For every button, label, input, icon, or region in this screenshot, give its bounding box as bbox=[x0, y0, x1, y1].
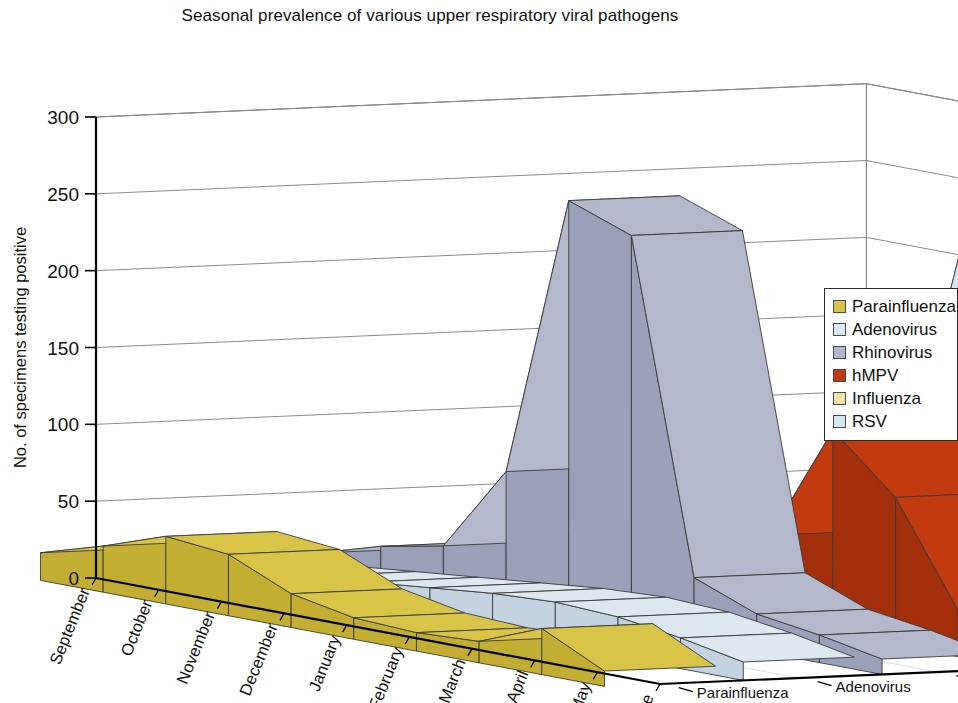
y-tick-label: 250 bbox=[47, 184, 79, 205]
surface-chart-3d: 050100150200250300No. of specimens testi… bbox=[0, 0, 958, 703]
x-tick-label: January bbox=[305, 632, 344, 694]
legend-item-adenovirus[interactable]: Adenovirus bbox=[833, 318, 949, 341]
ribbon-layer bbox=[40, 147, 958, 686]
legend-swatch-icon bbox=[833, 369, 846, 382]
legend-swatch-icon bbox=[833, 392, 846, 405]
y-tick-label: 50 bbox=[58, 491, 79, 512]
x-tick-label: December bbox=[236, 620, 281, 698]
y-axis-title: No. of specimens testing positive bbox=[11, 227, 29, 468]
legend-item-rhinovirus[interactable]: Rhinovirus bbox=[833, 341, 949, 364]
legend-swatch-icon bbox=[833, 346, 846, 359]
legend-item-parainfluenza[interactable]: Parainfluenza bbox=[833, 295, 949, 318]
y-tick-label: 150 bbox=[47, 338, 79, 359]
y-tick-label: 0 bbox=[68, 568, 79, 589]
legend-swatch-icon bbox=[833, 323, 846, 336]
y-tick-label: 200 bbox=[47, 261, 79, 282]
legend-label: hMPV bbox=[852, 367, 898, 384]
legend-label: Parainfluenza bbox=[852, 298, 956, 315]
legend-label: Influenza bbox=[852, 390, 921, 407]
legend-label: Adenovirus bbox=[852, 321, 937, 338]
z-tick-label: Parainfluenza bbox=[697, 684, 789, 701]
x-tick-label: February bbox=[365, 644, 407, 703]
x-tick-label: November bbox=[173, 608, 218, 686]
legend-item-hmpv[interactable]: hMPV bbox=[833, 364, 949, 387]
x-tick-label: April bbox=[502, 668, 531, 703]
legend-swatch-icon bbox=[833, 415, 846, 428]
legend-label: RSV bbox=[852, 413, 887, 430]
chart-legend: ParainfluenzaAdenovirusRhinovirushMPVInf… bbox=[824, 288, 958, 441]
x-tick-label: October bbox=[117, 597, 156, 659]
legend-swatch-icon bbox=[833, 300, 846, 313]
y-tick-label: 100 bbox=[47, 414, 79, 435]
z-tick-label: Adenovirus bbox=[836, 678, 911, 695]
legend-item-rsv[interactable]: RSV bbox=[833, 410, 949, 433]
ribbon-side-face bbox=[569, 201, 632, 628]
chart-container: Seasonal prevalence of various upper res… bbox=[0, 0, 958, 703]
legend-label: Rhinovirus bbox=[852, 344, 932, 361]
y-tick-label: 300 bbox=[47, 107, 79, 128]
legend-item-influenza[interactable]: Influenza bbox=[833, 387, 949, 410]
x-tick-label: September bbox=[46, 585, 93, 667]
x-tick-label: March bbox=[435, 656, 469, 703]
x-tick-label: June bbox=[627, 691, 657, 703]
